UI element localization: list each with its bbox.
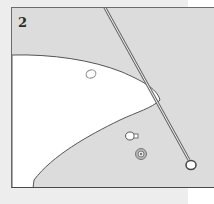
step-illustration bbox=[12, 8, 214, 188]
instruction-panel: 2 bbox=[11, 7, 214, 188]
round-button-icon bbox=[136, 149, 147, 160]
small-bead-icon bbox=[126, 132, 139, 140]
step-number: 2 bbox=[18, 16, 27, 29]
page-margin bbox=[188, 0, 214, 7]
